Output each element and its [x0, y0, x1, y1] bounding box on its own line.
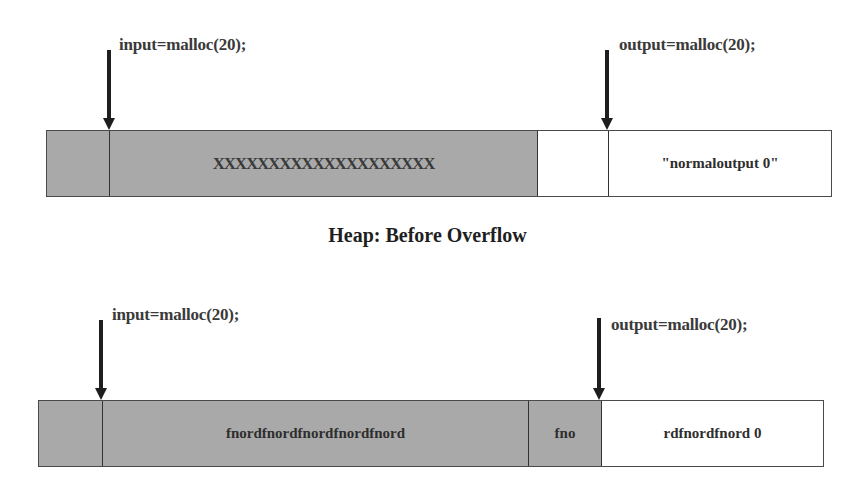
output-chunk-header [537, 131, 608, 196]
diagram-title: Heap: Before Overflow [0, 224, 855, 247]
overwritten-chunk-header: fno [528, 401, 601, 466]
output-buffer: "normaloutput 0" [608, 131, 831, 196]
heap-memory-row: fnordfnordfnordfnordfnord fno rdfnordfno… [38, 400, 824, 467]
heap-memory-row: XXXXXXXXXXXXXXXXXXXX "normaloutput 0" [46, 130, 832, 197]
input-buffer: fnordfnordfnordfnordfnord [102, 401, 528, 466]
input-chunk-header [47, 131, 109, 196]
input-pointer-arrow-icon [95, 320, 107, 400]
input-pointer-label: input=malloc(20); [119, 35, 246, 55]
input-buffer: XXXXXXXXXXXXXXXXXXXX [109, 131, 537, 196]
output-pointer-arrow-icon [593, 318, 605, 400]
output-buffer: rdfnordfnord 0 [601, 401, 823, 466]
input-pointer-arrow-icon [103, 50, 115, 130]
output-pointer-label: output=malloc(20); [619, 35, 755, 55]
output-pointer-label: output=malloc(20); [611, 315, 747, 335]
output-pointer-arrow-icon [601, 50, 613, 130]
input-chunk-header [39, 401, 102, 466]
input-pointer-label: input=malloc(20); [112, 305, 239, 325]
